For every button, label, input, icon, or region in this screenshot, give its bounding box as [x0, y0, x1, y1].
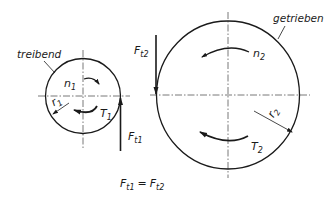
n2-rotation-arrow-icon: [202, 48, 249, 57]
gear-force-diagram: treibend n1 T1 r1 Ft1 getrieben n2 T2 r2: [0, 0, 334, 208]
n1-rotation-arrow-icon: [84, 78, 99, 84]
ft2-label: Ft2: [134, 44, 149, 59]
driving-gear: treibend n1 T1 r1 Ft1: [17, 48, 143, 151]
n2-label: n2: [253, 47, 265, 62]
t2-label: T2: [251, 140, 263, 155]
t2-torque-arrow-icon: [200, 132, 248, 141]
driven-leader-line: [278, 26, 285, 39]
driven-gear-label: getrieben: [273, 12, 324, 24]
ft1-label: Ft1: [128, 130, 143, 145]
driven-gear: getrieben n2 T2 r2 Ft2: [134, 12, 324, 178]
force-equation: Ft1=Ft2: [120, 177, 164, 192]
driving-gear-label: treibend: [17, 48, 62, 60]
n1-label: n1: [64, 77, 76, 92]
t1-label: T1: [100, 107, 112, 122]
t1-torque-arrow-icon: [74, 106, 97, 112]
driving-leader-line: [44, 61, 55, 73]
